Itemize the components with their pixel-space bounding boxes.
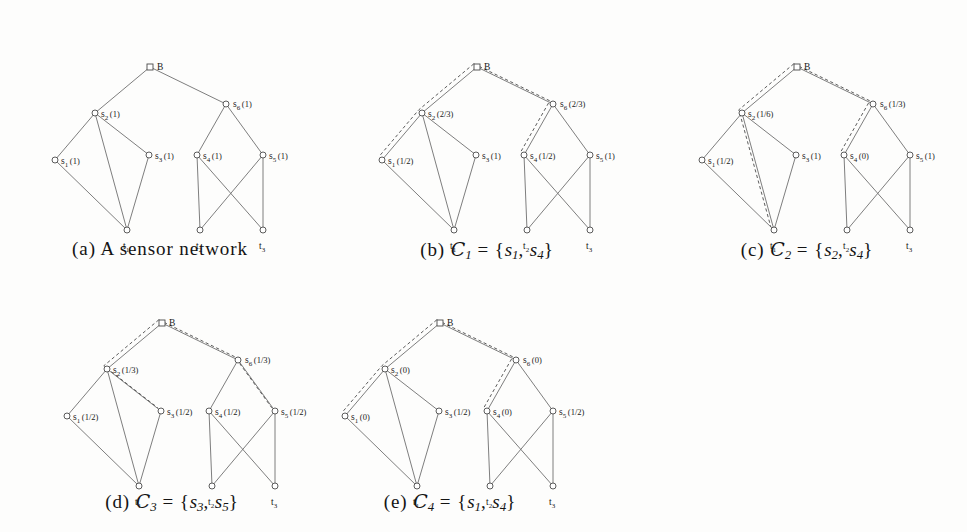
edge-s2-s1 (67, 369, 107, 416)
node-label-s4: s4(0) (850, 151, 869, 164)
node-s2 (739, 110, 745, 116)
edge-s3-t1 (127, 155, 149, 230)
caption-set-symbol-d: C (136, 490, 151, 512)
edge-s1-t1 (345, 416, 417, 486)
node-s2 (419, 110, 425, 116)
node-s4 (521, 152, 527, 158)
node-t2 (209, 483, 215, 489)
edge-s2-t1 (742, 113, 774, 230)
edge-B-s2 (742, 67, 797, 113)
node-label-s5: s5(1) (269, 151, 288, 164)
caption-equals-b: = { (472, 239, 505, 260)
node-t3 (907, 227, 913, 233)
node-B (159, 320, 165, 326)
edge-s2-s1 (345, 369, 385, 416)
edge-s6-s5 (516, 360, 553, 411)
node-s3 (146, 152, 152, 158)
caption-e: (e) C4 = {s1, s4} (290, 490, 610, 515)
edge-s6-s5 (553, 104, 590, 155)
node-t2 (487, 483, 493, 489)
caption-closebrace-c: } (863, 239, 873, 260)
node-label-s3: s3(1/2) (445, 407, 470, 420)
panel-c: Bs6(1/3)s2(1/6)s1(1/2)s3(1)s4(0)s5(1)t1t… (657, 22, 957, 252)
edge-s4-t2 (844, 155, 847, 230)
node-label-B: B (804, 62, 810, 72)
node-label-s2: s2(1/6) (748, 109, 773, 122)
edge-s3-t1 (139, 411, 161, 486)
node-s5 (260, 152, 266, 158)
node-t3 (260, 227, 266, 233)
edge-s6-s5 (226, 104, 263, 155)
panel-b: Bs6(2/3)s2(2/3)s1(1/2)s3(1)s4(1/2)s5(1)t… (337, 22, 637, 252)
caption-text-a: A sensor network (101, 238, 248, 259)
caption-set-symbol-e: C (413, 490, 428, 512)
node-label-s4: s4(1/2) (530, 151, 555, 164)
edge-s4-t2 (197, 155, 200, 230)
caption-closebrace-d: } (229, 491, 239, 512)
caption-prefix-e: (e) (384, 491, 413, 512)
node-s4 (484, 408, 490, 414)
edge-s1-t1 (382, 160, 454, 230)
edge-s4-t2 (209, 411, 212, 486)
caption-equals-c: = { (791, 239, 824, 260)
node-label-B: B (169, 318, 175, 328)
edge-s2-s3 (385, 369, 439, 411)
caption-comma-b: , (519, 239, 530, 260)
caption-prefix-b: (b) (420, 239, 451, 260)
edge-s2-s1 (55, 113, 95, 160)
node-label-s1: s1(1) (61, 156, 80, 169)
dashed-path-e-2 (437, 320, 513, 408)
edge-B-s6 (477, 67, 553, 104)
node-label-s3: s3(1) (802, 151, 821, 164)
caption-set-symbol-b: C (451, 238, 466, 260)
node-label-s1: s1(1/2) (388, 156, 413, 169)
caption-prefix-d: (d) (105, 491, 136, 512)
node-s6 (235, 357, 241, 363)
graph-e: Bs6(0)s2(0)s1(0)s3(1/2)s4(0)s5(1/2)t1t2t… (300, 278, 600, 508)
node-B (437, 320, 443, 326)
node-label-B: B (157, 62, 163, 72)
edge-s1-t1 (55, 160, 127, 230)
edge-B-s2 (422, 67, 477, 113)
node-s4 (194, 152, 200, 158)
edge-B-s6 (162, 323, 238, 360)
panel-e: Bs6(0)s2(0)s1(0)s3(1/2)s4(0)s5(1/2)t1t2t… (300, 278, 600, 508)
node-label-s3: s3(1) (155, 151, 174, 164)
node-label-s6: s6(1) (233, 99, 252, 112)
graph-a: Bs6(1)s2(1)s1(1)s3(1)s4(1)s5(1)t1t2t3 (10, 22, 310, 252)
caption-comma-e: , (481, 491, 492, 512)
node-t1 (451, 227, 457, 233)
node-label-s2: s2(0) (391, 365, 410, 378)
node-label-s6: s6(1/3) (880, 99, 905, 112)
caption-member-c-2: s (849, 239, 856, 260)
caption-member-d-1: s (190, 491, 197, 512)
edge-s2-s1 (382, 113, 422, 160)
node-s6 (870, 101, 876, 107)
node-t1 (771, 227, 777, 233)
node-label-s1: s1(0) (351, 412, 370, 425)
edge-s3-t1 (417, 411, 439, 486)
caption-comma-d: , (204, 491, 215, 512)
node-t3 (550, 483, 556, 489)
node-t3 (272, 483, 278, 489)
node-label-s6: s6(1/3) (245, 355, 270, 368)
caption-b: (b) C1 = {s1, s4} (327, 238, 647, 263)
caption-member-e-1: s (467, 491, 474, 512)
edge-B-s6 (440, 323, 516, 360)
node-label-B: B (484, 62, 490, 72)
edge-s1-t1 (67, 416, 139, 486)
node-s3 (158, 408, 164, 414)
panel-a: Bs6(1)s2(1)s1(1)s3(1)s4(1)s5(1)t1t2t3 (10, 22, 310, 252)
node-s3 (473, 152, 479, 158)
caption-closebrace-b: } (544, 239, 554, 260)
edge-s2-s3 (422, 113, 476, 155)
edge-s6-s5 (873, 104, 910, 155)
node-s2 (104, 366, 110, 372)
edge-s2-t1 (95, 113, 127, 230)
edge-s4-t2 (487, 411, 490, 486)
node-s4 (206, 408, 212, 414)
dashed-path-b-2 (474, 64, 550, 152)
node-label-s3: s3(1) (482, 151, 501, 164)
edge-s2-s3 (95, 113, 149, 155)
caption-prefix-a: (a) (72, 238, 100, 259)
